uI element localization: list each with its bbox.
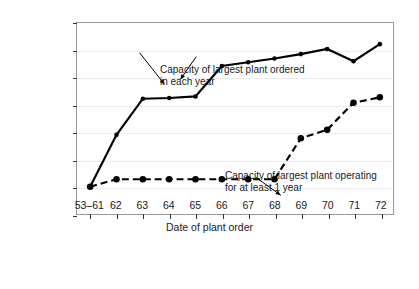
- x-axis-tick-label: 71: [348, 199, 360, 211]
- y-axis-tick: [73, 216, 77, 217]
- x-axis-tick: [90, 214, 91, 219]
- x-axis-tick-label: 67: [242, 199, 254, 211]
- x-axis-tick-label: 63: [136, 199, 148, 211]
- x-axis-tick-label: 72: [375, 199, 387, 211]
- data-point: [193, 94, 198, 99]
- x-axis-tick: [143, 214, 144, 219]
- annotation-operating: Capacity of largest plant operating for …: [225, 170, 377, 194]
- annotation-ordered-line2: in each year: [160, 76, 305, 88]
- plot-area: Capacity of largest plant ordered in eac…: [76, 22, 394, 215]
- data-point: [324, 126, 331, 133]
- x-axis-tick-label: 53–61: [75, 199, 104, 211]
- x-axis-tick: [170, 214, 171, 219]
- data-point: [192, 176, 199, 183]
- data-point: [141, 96, 146, 101]
- data-point: [272, 56, 277, 61]
- x-axis-tick-label: 64: [163, 199, 175, 211]
- x-axis-tick-label: 68: [269, 199, 281, 211]
- x-axis-tick: [329, 214, 330, 219]
- data-point: [299, 52, 304, 57]
- data-point: [378, 42, 383, 47]
- x-axis-tick-label: 70: [322, 199, 334, 211]
- annotation-ordered: Capacity of largest plant ordered in eac…: [160, 64, 305, 88]
- x-axis-title: Date of plant order: [0, 221, 419, 233]
- data-point: [87, 183, 94, 190]
- data-point: [114, 133, 119, 138]
- data-point: [113, 176, 120, 183]
- data-point: [298, 135, 305, 142]
- x-axis-tick-label: 65: [189, 199, 201, 211]
- data-point: [351, 59, 356, 64]
- x-axis-tick: [196, 214, 197, 219]
- x-axis-tick: [117, 214, 118, 219]
- chart-container: Electrical output (MWe) Capacity of larg…: [0, 0, 419, 289]
- x-axis-tick-label: 66: [216, 199, 228, 211]
- data-point: [325, 47, 330, 52]
- x-axis-tick: [249, 214, 250, 219]
- data-point: [140, 176, 147, 183]
- x-axis-tick-label: 62: [110, 199, 122, 211]
- annotation-operating-line1: Capacity of largest plant operating: [225, 170, 377, 182]
- data-point: [166, 176, 173, 183]
- data-point: [377, 94, 384, 101]
- annotation-ordered-line1: Capacity of largest plant ordered: [160, 64, 305, 76]
- data-point: [350, 100, 357, 107]
- x-axis-tick: [276, 214, 277, 219]
- x-axis-tick: [223, 214, 224, 219]
- x-axis-tick: [302, 214, 303, 219]
- annotation-operating-line2: for at least 1 year: [225, 182, 377, 194]
- x-axis-tick-label: 69: [295, 199, 307, 211]
- data-point: [167, 96, 172, 101]
- x-axis-tick: [355, 214, 356, 219]
- x-axis-tick: [382, 214, 383, 219]
